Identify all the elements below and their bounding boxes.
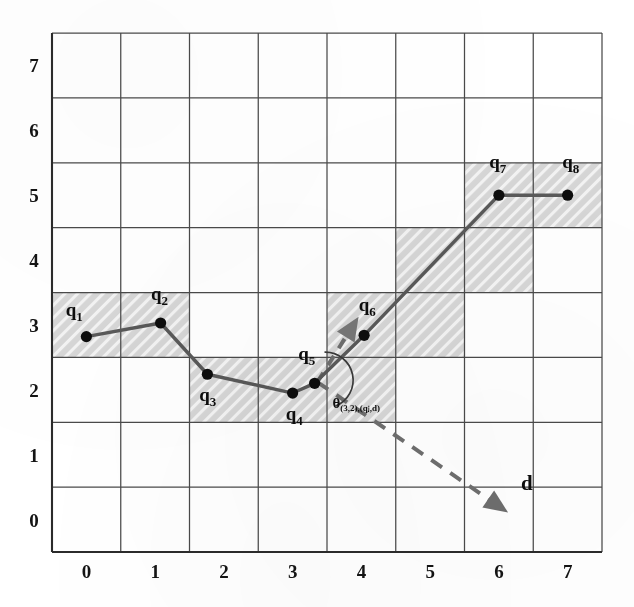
x-tick-label: 7 (563, 561, 573, 582)
x-tick-label: 1 (150, 561, 160, 582)
x-tick-label: 0 (82, 561, 92, 582)
trajectory-point-marker (493, 190, 504, 201)
trajectory-point-marker (562, 190, 573, 201)
y-tick-label: 2 (29, 380, 39, 401)
x-tick-label: 5 (425, 561, 435, 582)
y-tick-label: 0 (29, 510, 39, 531)
x-tick-label: 2 (219, 561, 229, 582)
trajectory-point-marker (287, 387, 298, 398)
y-tick-label: 5 (29, 185, 39, 206)
direction-vector-label: d (521, 471, 533, 495)
trajectory-point-marker (155, 317, 166, 328)
grid-lines-layer (52, 33, 602, 552)
trajectory-point-marker (309, 378, 320, 389)
shaded-cell (396, 293, 465, 358)
trajectory-point-marker (202, 369, 213, 380)
annotation-text-layer: θ(3,2),(qⱼ,d)d (333, 395, 533, 495)
figure-canvas: 0123456701234567 q1q2q3q4q5q6q7q8 θ(3,2)… (0, 0, 634, 607)
x-tick-label: 4 (357, 561, 367, 582)
y-tick-label: 7 (29, 55, 39, 76)
shaded-cell (52, 293, 121, 358)
shaded-cell (465, 228, 534, 293)
shaded-cell (396, 228, 465, 293)
trajectory-point-marker (81, 331, 92, 342)
y-tick-label: 1 (29, 445, 39, 466)
y-tick-label: 6 (29, 120, 39, 141)
trajectory-grid-plot: 0123456701234567 q1q2q3q4q5q6q7q8 θ(3,2)… (0, 0, 634, 607)
y-tick-label: 4 (29, 250, 39, 271)
trajectory-point-marker (359, 330, 370, 341)
y-tick-label: 3 (29, 315, 39, 336)
x-tick-label: 6 (494, 561, 504, 582)
x-tick-label: 3 (288, 561, 298, 582)
